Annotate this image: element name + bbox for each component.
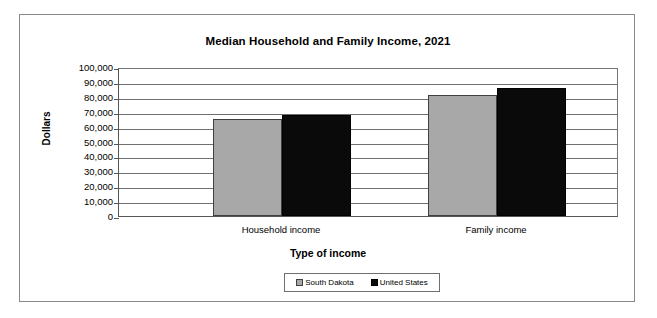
y-axis-tick-label: 50,000 (53, 138, 113, 148)
y-axis-tick-label: 90,000 (53, 78, 113, 88)
y-axis-tick (114, 218, 119, 219)
chart-screenshot: Median Household and Family Income, 2021… (0, 0, 657, 318)
legend-item-south-dakota: South Dakota (296, 278, 353, 287)
y-axis-tick (114, 188, 119, 189)
legend-item-united-states: United States (371, 278, 428, 287)
y-axis-tick-label: 10,000 (53, 197, 113, 207)
y-axis-tick-label: 0 (53, 212, 113, 222)
legend-label-united-states: United States (380, 278, 428, 287)
y-axis-tick (114, 158, 119, 159)
y-axis-tick (114, 144, 119, 145)
chart-title: Median Household and Family Income, 2021 (20, 35, 636, 47)
bar-household-income-south-dakota (213, 119, 282, 216)
bar-family-income-united-states (497, 88, 566, 216)
y-axis-tick-label: 60,000 (53, 123, 113, 133)
y-axis-tick-label: 20,000 (53, 182, 113, 192)
y-axis-tick (114, 69, 119, 70)
y-axis-tick-label: 80,000 (53, 93, 113, 103)
gridline (119, 84, 617, 85)
chart-legend: South Dakota United States (284, 273, 440, 292)
plot-area (118, 68, 618, 217)
legend-swatch-united-states (371, 279, 378, 286)
legend-swatch-south-dakota (296, 279, 303, 286)
legend-label-south-dakota: South Dakota (305, 278, 353, 287)
bar-household-income-united-states (282, 115, 351, 216)
bar-family-income-south-dakota (428, 95, 497, 216)
y-axis-tick-labels: 010,00020,00030,00040,00050,00060,00070,… (50, 68, 113, 217)
y-axis-tick (114, 114, 119, 115)
y-axis-tick-label: 40,000 (53, 152, 113, 162)
y-axis-tick-label: 30,000 (53, 167, 113, 177)
y-axis-tick (114, 84, 119, 85)
y-axis-tick (114, 173, 119, 174)
y-axis-tick (114, 99, 119, 100)
x-axis-label-household-income: Household income (211, 224, 351, 235)
x-axis-title: Type of income (20, 247, 636, 259)
y-axis-tick-label: 100,000 (53, 63, 113, 73)
y-axis-tick (114, 203, 119, 204)
x-axis-label-family-income: Family income (426, 224, 566, 235)
chart-frame: Median Household and Family Income, 2021… (19, 14, 635, 302)
y-axis-tick-label: 70,000 (53, 108, 113, 118)
y-axis-tick (114, 129, 119, 130)
